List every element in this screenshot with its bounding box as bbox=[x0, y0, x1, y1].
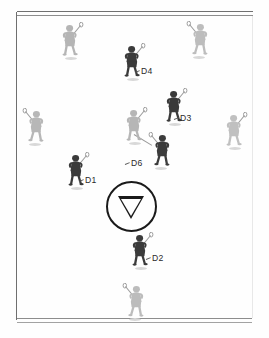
player-shadow bbox=[65, 57, 77, 60]
field-border-top-outer bbox=[17, 11, 253, 12]
player-a6 bbox=[122, 283, 148, 319]
player-shadow bbox=[71, 187, 83, 190]
field-border-left bbox=[16, 12, 17, 320]
player-label-d1: D1 bbox=[85, 175, 96, 185]
player-shadow bbox=[155, 167, 167, 170]
player-label-d4: D4 bbox=[141, 66, 152, 76]
player-shadow bbox=[135, 267, 147, 270]
player-a2 bbox=[186, 21, 212, 57]
player-d6 bbox=[148, 132, 174, 168]
player-label-d2: D2 bbox=[152, 253, 163, 263]
player-shadow bbox=[127, 78, 139, 81]
label-leader-tick bbox=[125, 162, 130, 165]
field-border-bottom-outer bbox=[17, 322, 252, 323]
down-triangle-fill bbox=[121, 199, 141, 216]
player-shadow bbox=[229, 147, 241, 150]
player-a4 bbox=[122, 107, 148, 143]
player-label-d3: D3 bbox=[180, 113, 191, 123]
player-a3 bbox=[22, 108, 48, 144]
player-a5 bbox=[222, 112, 248, 148]
field-border-top-inner bbox=[17, 15, 253, 16]
face-off-circle-marker bbox=[106, 181, 157, 232]
player-shadow bbox=[29, 143, 41, 146]
player-label-d6: D6 bbox=[131, 158, 142, 168]
player-shadow bbox=[129, 142, 141, 145]
field-diagram: D4D3D6D1D2 bbox=[0, 0, 269, 338]
player-shadow bbox=[129, 318, 141, 321]
player-d2 bbox=[128, 232, 154, 268]
player-a1 bbox=[58, 22, 84, 58]
player-shadow bbox=[193, 56, 205, 59]
player-shadow bbox=[169, 123, 181, 126]
field-border-right bbox=[252, 16, 253, 318]
